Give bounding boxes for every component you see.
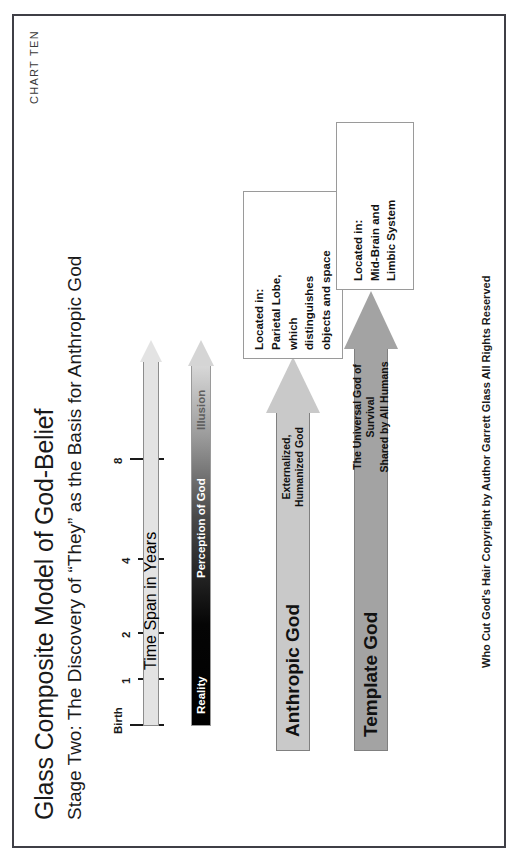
page-title: Glass Composite Model of God-Belief: [30, 200, 59, 820]
anthropic-god-desc-line2: Humanized God: [293, 415, 306, 519]
copyright-credit: Who Cut God's Hair Copyright by Author G…: [480, 276, 492, 668]
callout-parietal-lobe: Located in: Parietal Lobe, which disting…: [243, 191, 343, 359]
anthropic-god-desc-line1: Externalized,: [280, 415, 293, 519]
callout-parietal-line3: which: [285, 200, 302, 350]
callout-midbrain-line2: Mid-Brain and: [367, 131, 384, 281]
callout-parietal-line5: objects and space: [318, 200, 335, 350]
callout-mid-brain: Located in: Mid-Brain and Limbic System: [336, 122, 414, 290]
time-tick-label: Birth: [112, 707, 124, 734]
time-span-arrow-head: [140, 340, 162, 362]
callout-parietal-line1: Located in:: [251, 200, 268, 350]
time-axis-title: Time Span in Years: [142, 532, 160, 670]
perception-reality-label: Reality: [191, 676, 211, 714]
callout-midbrain-line3: Limbic System: [383, 131, 400, 281]
perception-illusion-label: Illusion: [191, 390, 211, 430]
anthropic-god-arrow: Anthropic God Externalized, Humanized Go…: [266, 357, 320, 751]
perception-axis-title: Perception of God: [191, 478, 211, 578]
time-tick-label: 8: [112, 458, 124, 464]
callout-parietal-line2: Parietal Lobe,: [268, 200, 285, 350]
rotated-chart-canvas: Glass Composite Model of God-Belief Stag…: [14, 16, 504, 846]
anthropic-god-description: Externalized, Humanized God: [276, 415, 310, 519]
template-god-desc-line2: Shared by All Humans: [378, 351, 391, 483]
time-tick-label: 2: [120, 632, 132, 638]
page-subtitle: Stage Two: The Discovery of “They” as th…: [64, 160, 86, 820]
time-tick-label: 1: [120, 678, 132, 684]
chart-number-label: CHART TEN: [28, 30, 40, 104]
callout-parietal-line4: distinguishes: [301, 200, 318, 350]
chart-page-frame: Glass Composite Model of God-Belief Stag…: [12, 14, 506, 848]
perception-arrow-head: [188, 340, 214, 366]
time-tick-label: 4: [120, 558, 132, 564]
template-god-arrow: Template God The Universal God of Surviv…: [344, 291, 398, 751]
anthropic-god-arrow-head: [266, 357, 320, 413]
perception-of-god-arrow: Reality Perception of God Illusion: [188, 340, 214, 726]
template-god-arrow-head: [344, 291, 398, 349]
template-god-description: The Universal God of Survival Shared by …: [354, 351, 388, 483]
anthropic-god-title: Anthropic God: [276, 604, 310, 737]
callout-midbrain-line1: Located in:: [350, 131, 367, 281]
template-god-title: Template God: [354, 612, 388, 737]
template-god-desc-line1: The Universal God of Survival: [351, 351, 377, 483]
